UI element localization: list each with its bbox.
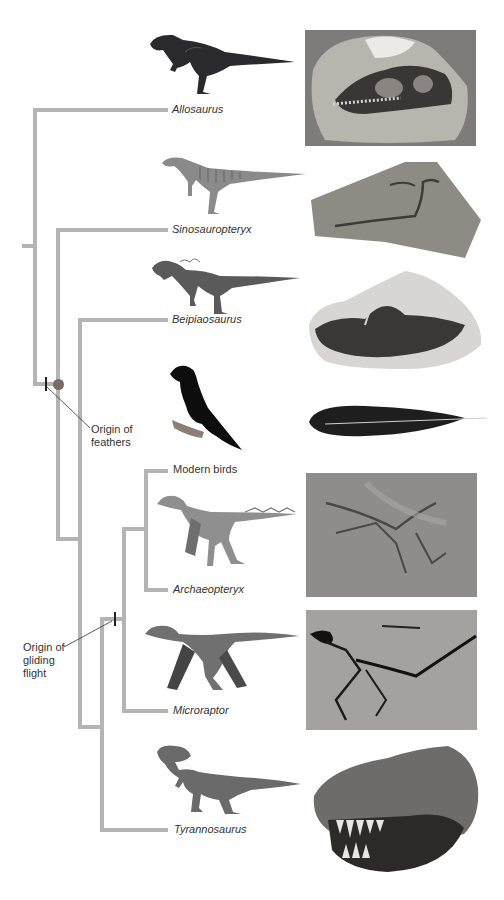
beipiaosaurus-fossil-photo [305,265,485,370]
microraptor-fossil-photo [306,610,477,730]
branch-tyrannosaurus [100,828,168,832]
sinosauropteryx-slab-fossil-photo [305,160,485,260]
origin-of-gliding-flight-label: Origin of gliding flight [23,641,65,680]
black-feather-photo [305,400,490,445]
branch-beipiaosaurus [78,318,168,322]
branch-vertical-4 [100,617,104,832]
branch-sinosauropteryx [56,228,168,232]
branch-modern-birds [144,469,168,473]
tyrannosaurus-illustration [155,742,305,817]
taxon-label-microraptor: Microraptor [173,704,229,716]
beipiaosaurus-illustration [150,256,305,318]
tyrannosaurus-skull-photo [308,738,483,878]
taxon-label-tyrannosaurus: Tyrannosaurus [174,823,247,835]
branch-allosaurus [33,108,168,112]
sinosauropteryx-illustration [160,150,310,220]
crow-illustration [168,362,243,457]
feathers-node-dot [53,379,64,390]
origin-of-feathers-label: Origin of feathers [91,423,133,449]
branch-vertical-root [33,108,37,386]
taxon-label-modern-birds: Modern birds [173,463,237,475]
archaeopteryx-fossil-photo [306,473,477,597]
taxon-label-sinosauropteryx: Sinosauropteryx [172,223,252,235]
taxon-label-archaeopteryx: Archaeopteryx [173,583,244,595]
feathers-origin-tick [45,377,47,391]
microraptor-illustration [143,618,303,696]
archaeopteryx-illustration [155,490,300,572]
gliding-origin-tick [114,612,116,626]
branch-vertical-3 [78,318,82,729]
branch-vertical-6 [144,469,148,592]
allosaurus-skull-fossil-photo [305,30,476,146]
branch-archaeopteryx [144,588,168,592]
allosaurus-illustration [145,30,300,98]
branch-vertical-5 [122,527,126,713]
branch-microraptor [122,709,168,713]
taxon-label-allosaurus: Allosaurus [172,103,223,115]
